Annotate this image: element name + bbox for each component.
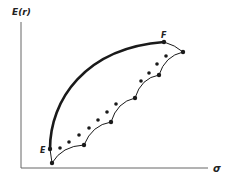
dot-point [105,110,109,114]
x-axis-label: σ [213,163,221,174]
dot-point [155,62,159,66]
vertex-point [50,161,54,165]
point-e-label: E [40,146,46,155]
vertex-point [157,73,161,77]
intermediate-dots [58,54,168,150]
dot-point [58,146,62,150]
dot-point [67,140,71,144]
dot-point [87,126,91,130]
dot-point [147,71,151,75]
risk-return-diagram: E(r) σ E F [0,0,230,183]
y-axis-label: E(r) [12,7,31,17]
efficient-frontier-curve [50,42,164,149]
dot-point [77,133,81,137]
dot-point [164,54,168,58]
point-e [48,147,52,151]
vertex-point [82,143,86,147]
dot-point [114,102,118,106]
point-f-label: F [161,31,167,40]
vertex-point [109,120,113,124]
frontier-tail-curve [164,42,183,52]
dot-point [139,79,143,83]
vertex-point [133,96,137,100]
vertex-point [181,50,185,54]
scalloped-envelope [52,52,183,163]
point-f [162,40,166,44]
dot-point [96,118,100,122]
